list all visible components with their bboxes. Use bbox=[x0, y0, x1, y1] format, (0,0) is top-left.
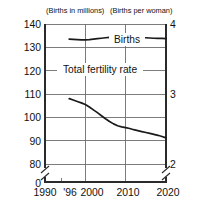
ytick-left-100: 100 bbox=[24, 112, 42, 123]
ytick-left-120: 120 bbox=[24, 66, 42, 77]
ytick-left-90: 90 bbox=[29, 136, 41, 147]
xtick-2020: 2020 bbox=[156, 187, 179, 198]
right-axis-header: (Births per woman) bbox=[110, 6, 172, 15]
x-axis-tick-labels: 1990 '96 2000 2010 2020 bbox=[33, 187, 179, 198]
right-axis-tick-labels: 4 3 2 bbox=[170, 19, 176, 170]
ytick-left-130: 130 bbox=[24, 42, 42, 53]
xtick-2000: 2000 bbox=[80, 187, 103, 198]
series-label-births: Births bbox=[114, 34, 140, 45]
series-label-total-fertility-rate: Total fertility rate bbox=[63, 64, 138, 75]
xtick-1990: 1990 bbox=[33, 187, 56, 198]
dual-axis-line-chart: (Births in millions) (Births per woman) … bbox=[0, 0, 198, 204]
ytick-left-110: 110 bbox=[24, 89, 41, 100]
left-axis-header: (Births in millions) bbox=[46, 6, 104, 15]
xtick-1996: '96 bbox=[63, 187, 77, 198]
ytick-right-2: 2 bbox=[170, 159, 176, 170]
xtick-2010: 2010 bbox=[116, 187, 139, 198]
ytick-right-3: 3 bbox=[170, 89, 176, 100]
ytick-left-80: 80 bbox=[29, 159, 41, 170]
left-axis-tick-labels: 140 130 120 110 100 90 80 0 bbox=[24, 19, 42, 189]
ytick-right-4: 4 bbox=[170, 19, 176, 30]
ytick-left-140: 140 bbox=[24, 19, 42, 30]
chart-canvas: (Births in millions) (Births per woman) … bbox=[0, 0, 198, 204]
